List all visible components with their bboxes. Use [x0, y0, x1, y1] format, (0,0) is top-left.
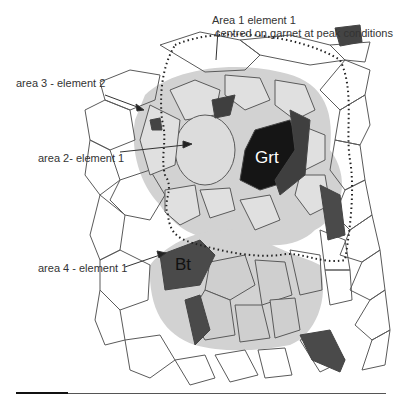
- bottom-rule: [68, 393, 386, 394]
- grain-diagram: [0, 0, 402, 395]
- area-3-label: area 3 - element 2: [16, 77, 105, 89]
- bottom-rule-accent: [16, 392, 68, 394]
- area-4-label: area 4 - element 1: [38, 262, 127, 274]
- area-1-label-line1: Area 1 element 1: [212, 14, 296, 26]
- garnet-label: Grt: [255, 148, 279, 168]
- area-1-label-line2: centred on garnet at peak conditions: [215, 27, 393, 39]
- area-2-label: area 2- element 1: [38, 152, 124, 164]
- biotite-label: Bt: [175, 255, 191, 275]
